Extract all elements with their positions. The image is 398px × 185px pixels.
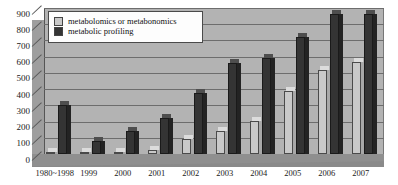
bar-side (135, 131, 139, 154)
y-axis-tick-labels: 0100200300400500600700800900 (0, 0, 30, 185)
bar-face (228, 63, 237, 154)
bar-face (114, 152, 123, 154)
legend-item: metabolomics or metabonomics (54, 17, 197, 26)
chart-figure: 0100200300400500600700800900 1980~199819… (0, 0, 398, 185)
bar-2000-metabolomics (114, 152, 123, 154)
dark-gray-swatch-icon (54, 27, 63, 36)
bar-side (169, 118, 173, 155)
bar-face (126, 131, 135, 154)
bar-face (80, 152, 89, 154)
x-axis-tick-label: 2007 (338, 168, 384, 178)
bar-side (271, 58, 275, 154)
y-axis-tick-label: 100 (0, 139, 30, 148)
bar-2001-profiling (160, 118, 169, 155)
axis-rib (32, 5, 42, 15)
bar-face (262, 58, 271, 154)
bar-2006-profiling (330, 14, 339, 154)
bar-face (250, 121, 259, 154)
bar-face (148, 150, 157, 154)
bar-side (237, 63, 241, 154)
bar-side (67, 105, 71, 154)
bar-face (194, 93, 203, 154)
bar-2003-profiling (228, 63, 237, 154)
y-axis-tick-label: 800 (0, 26, 30, 35)
bar-side (305, 37, 309, 154)
bar-side (339, 14, 343, 154)
bar-2007-metabolomics (352, 62, 361, 154)
bar-2006-metabolomics (318, 70, 327, 154)
y-axis-tick-label: 500 (0, 74, 30, 83)
bar-face (216, 131, 225, 154)
y-axis-tick-label: 700 (0, 42, 30, 51)
bar-1999-metabolomics (80, 152, 89, 154)
y-axis-tick-label: 900 (0, 10, 30, 19)
bar-1999-profiling (92, 141, 101, 154)
bar-chart: 0100200300400500600700800900 1980~199819… (0, 0, 398, 185)
bar-face (58, 105, 67, 154)
bar-2003-metabolomics (216, 131, 225, 154)
bar-face (352, 62, 361, 154)
bar-face (330, 14, 339, 154)
bar-19801998-metabolomics (46, 152, 55, 154)
chart-legend: metabolomics or metabonomics metabolic p… (48, 11, 203, 43)
bar-2004-profiling (262, 58, 271, 154)
bar-2005-metabolomics (284, 91, 293, 154)
bar-19801998-profiling (58, 105, 67, 154)
bar-face (364, 14, 373, 154)
legend-item-label: metabolomics or metabonomics (68, 17, 177, 26)
y-axis-tick-label: 200 (0, 123, 30, 132)
bar-2002-metabolomics (182, 139, 191, 154)
y-axis-tick-label: 0 (0, 156, 30, 165)
bar-face (318, 70, 327, 154)
bar-face (92, 141, 101, 154)
legend-item-label: metabolic profiling (68, 27, 133, 36)
x-axis-tick-labels: 1980~19981999200020012002200320042005200… (0, 168, 398, 182)
bar-face (182, 139, 191, 154)
bar-2007-profiling (364, 14, 373, 154)
legend-item: metabolic profiling (54, 27, 197, 36)
bar-2005-profiling (296, 37, 305, 154)
bar-side (101, 141, 105, 154)
bar-side (203, 93, 207, 154)
bar-2001-metabolomics (148, 150, 157, 154)
bar-face (296, 37, 305, 154)
bar-face (284, 91, 293, 154)
bar-side (373, 14, 377, 154)
y-axis-tick-label: 600 (0, 58, 30, 67)
bar-face (160, 118, 169, 155)
bar-2002-profiling (194, 93, 203, 154)
y-axis-tick-label: 400 (0, 91, 30, 100)
bar-2000-profiling (126, 131, 135, 154)
bar-face (46, 152, 55, 154)
y-axis-tick-label: 300 (0, 107, 30, 116)
bar-2004-metabolomics (250, 121, 259, 154)
light-gray-swatch-icon (54, 17, 63, 26)
